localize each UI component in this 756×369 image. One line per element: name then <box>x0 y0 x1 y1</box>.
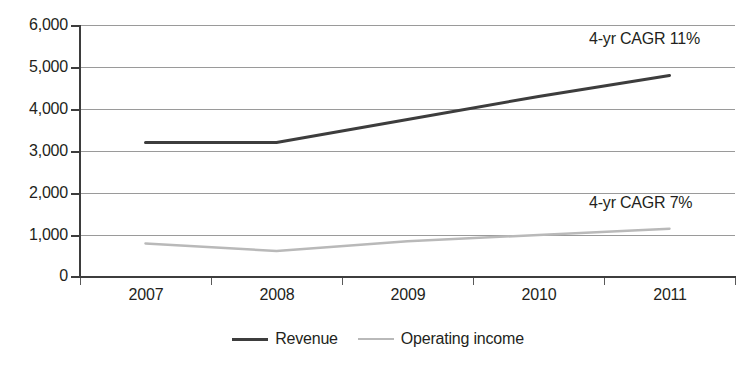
legend-swatch-revenue <box>232 338 268 341</box>
annotation-revenue-cagr: 4-yr CAGR 11% <box>589 30 700 48</box>
legend-label-revenue: Revenue <box>275 330 338 348</box>
legend-item-operating-income: Operating income <box>358 330 524 348</box>
y-tick-label-5000: 5,000 <box>2 58 68 76</box>
legend-label-operating-income: Operating income <box>401 330 524 348</box>
x-tick-mark-1 <box>211 278 212 285</box>
y-tick-label-0: 0 <box>2 267 68 285</box>
y-tick-label-4000: 4,000 <box>2 100 68 118</box>
y-tick-label-6000: 6,000 <box>2 16 68 34</box>
legend-item-revenue: Revenue <box>232 330 338 348</box>
x-tick-label-2007: 2007 <box>105 286 187 304</box>
x-tick-label-2011: 2011 <box>629 286 711 304</box>
legend-swatch-operating-income <box>358 338 394 340</box>
y-tick-mark-3000 <box>71 151 80 153</box>
y-tick-label-2000: 2,000 <box>2 184 68 202</box>
y-tick-mark-5000 <box>71 67 80 69</box>
chart-legend: Revenue Operating income <box>0 330 756 348</box>
x-tick-mark-2 <box>342 278 343 285</box>
x-tick-mark-4 <box>604 278 605 285</box>
x-tick-mark-0 <box>80 278 81 285</box>
plot-area <box>80 25 735 277</box>
line-chart: 6,000 5,000 4,000 3,000 2,000 1,000 0 20… <box>0 0 756 369</box>
x-tick-mark-3 <box>473 278 474 285</box>
y-tick-mark-6000 <box>71 25 80 27</box>
y-tick-mark-1000 <box>71 235 80 237</box>
x-tick-label-2010: 2010 <box>498 286 580 304</box>
gridline-4000 <box>80 109 735 110</box>
y-tick-label-1000: 1,000 <box>2 226 68 244</box>
gridline-5000 <box>80 67 735 68</box>
y-tick-mark-4000 <box>71 109 80 111</box>
x-tick-label-2008: 2008 <box>236 286 318 304</box>
gridline-6000 <box>80 25 735 26</box>
x-tick-mark-5 <box>735 278 736 285</box>
x-axis-line <box>79 276 736 278</box>
y-tick-mark-2000 <box>71 193 80 195</box>
gridline-1000 <box>80 235 735 236</box>
gridline-3000 <box>80 151 735 152</box>
y-tick-label-3000: 3,000 <box>2 142 68 160</box>
annotation-operating-income-cagr: 4-yr CAGR 7% <box>589 194 692 212</box>
x-tick-label-2009: 2009 <box>367 286 449 304</box>
